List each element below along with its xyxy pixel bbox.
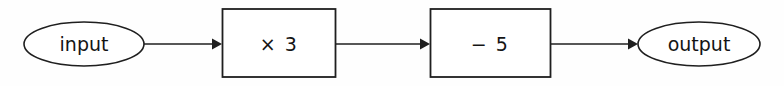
arrowhead-icon bbox=[420, 39, 430, 50]
edge-subtract-to-output bbox=[551, 39, 638, 50]
node-input-label: input bbox=[60, 33, 109, 55]
node-operation-subtract-label: − 5 bbox=[471, 33, 510, 55]
edge-multiply-to-subtract bbox=[336, 39, 430, 50]
arrowhead-icon bbox=[628, 39, 638, 50]
node-input[interactable]: input bbox=[24, 22, 144, 66]
node-operation-multiply-label: × 3 bbox=[260, 33, 299, 55]
node-output[interactable]: output bbox=[638, 22, 760, 66]
node-operation-subtract[interactable]: − 5 bbox=[431, 9, 551, 77]
arrowhead-icon bbox=[212, 39, 222, 50]
flowchart-canvas: input × 3 − 5 output bbox=[0, 0, 784, 86]
edge-input-to-multiply bbox=[144, 39, 222, 50]
node-output-label: output bbox=[668, 33, 731, 55]
node-operation-multiply[interactable]: × 3 bbox=[223, 9, 336, 77]
function-machine-diagram: input × 3 − 5 output bbox=[0, 0, 784, 86]
